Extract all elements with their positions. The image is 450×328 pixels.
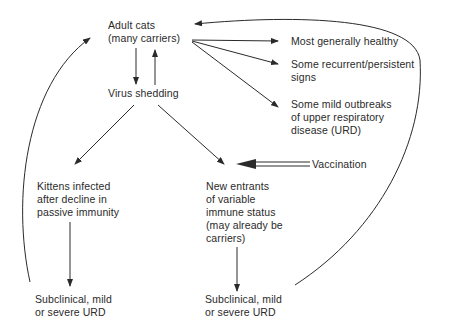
edge-adult-to-recurrent	[192, 41, 278, 64]
node-kittens-line-3: passive immunity	[37, 206, 119, 219]
node-adult-cats-line-2: (many carriers)	[108, 32, 180, 45]
edge-adult-to-healthy	[192, 40, 278, 41]
node-recurrent-signs: Some recurrent/persistent signs	[291, 58, 414, 84]
node-virus-shedding-line-1: Virus shedding	[108, 87, 179, 100]
node-recurrent-signs-line-2: signs	[291, 71, 414, 84]
node-kittens-outcome-line-2: or severe URD	[35, 306, 112, 319]
node-entrants-outcome-line-2: or severe URD	[205, 306, 282, 319]
node-new-entrants-line-5: carriers)	[206, 232, 283, 245]
edge-shedding-to-entrants	[158, 105, 224, 164]
node-new-entrants: New entrants of variable immune status (…	[206, 180, 283, 245]
node-kittens: Kittens infected after decline in passiv…	[37, 180, 119, 219]
node-entrants-outcome-line-1: Subclinical, mild	[205, 293, 282, 306]
node-most-healthy-line-1: Most generally healthy	[291, 35, 398, 48]
edge-adult-to-outbreaks	[192, 42, 278, 107]
edge-kittens-outcome-return	[23, 38, 90, 282]
node-mild-outbreaks-line-2: of upper respiratory	[291, 111, 392, 124]
node-vaccination-line-1: Vaccination	[312, 158, 367, 171]
node-entrants-outcome: Subclinical, mild or severe URD	[205, 293, 282, 319]
node-new-entrants-line-1: New entrants	[206, 180, 283, 193]
node-mild-outbreaks-line-3: disease (URD)	[291, 124, 392, 137]
node-new-entrants-line-4: (may already be	[206, 219, 283, 232]
node-mild-outbreaks-line-1: Some mild outbreaks	[291, 98, 392, 111]
node-kittens-outcome: Subclinical, mild or severe URD	[35, 293, 112, 319]
node-vaccination: Vaccination	[312, 158, 367, 171]
node-recurrent-signs-line-1: Some recurrent/persistent	[291, 58, 414, 71]
node-kittens-line-2: after decline in	[37, 193, 119, 206]
node-new-entrants-line-2: of variable	[206, 193, 283, 206]
edge-shedding-to-kittens	[75, 105, 134, 164]
node-adult-cats-line-1: Adult cats	[108, 19, 180, 32]
vaccination-arrowhead	[236, 159, 256, 169]
node-most-healthy: Most generally healthy	[291, 35, 398, 48]
node-virus-shedding: Virus shedding	[108, 87, 179, 100]
node-adult-cats: Adult cats (many carriers)	[108, 19, 180, 45]
node-mild-outbreaks: Some mild outbreaks of upper respiratory…	[291, 98, 392, 137]
node-kittens-line-1: Kittens infected	[37, 180, 119, 193]
diagram-edges	[0, 0, 450, 328]
node-new-entrants-line-3: immune status	[206, 206, 283, 219]
node-kittens-outcome-line-1: Subclinical, mild	[35, 293, 112, 306]
